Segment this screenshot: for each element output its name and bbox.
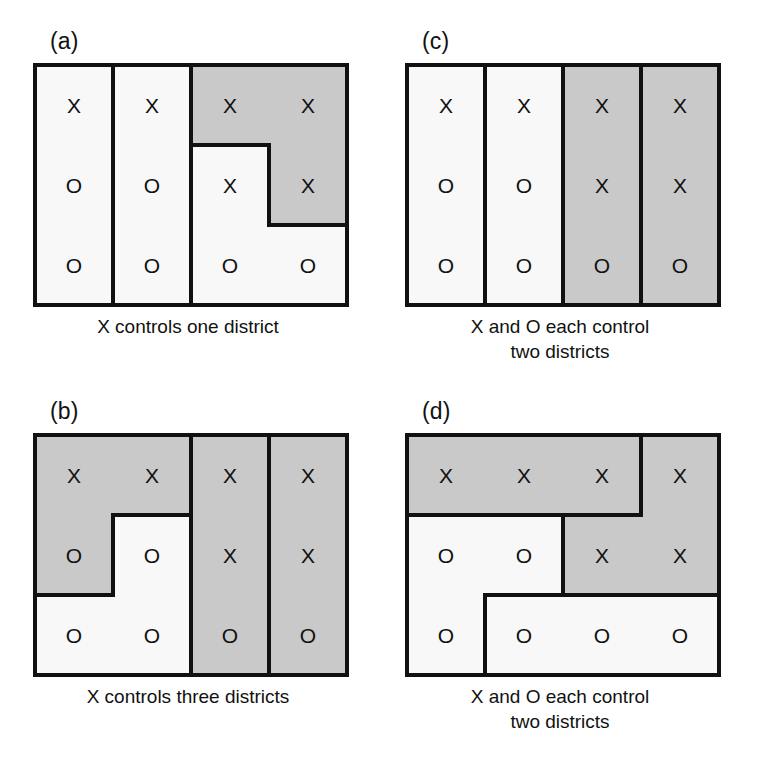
panel-a-caption: X controls one district	[8, 314, 368, 339]
voter-o-r1-c0: O	[66, 544, 82, 567]
panel-a-districts: XXXXOOXXOOOO	[32, 62, 350, 308]
voter-o-r1-c0: O	[438, 544, 454, 567]
voter-o-r2-c2: O	[594, 624, 610, 647]
voter-x-r0-c1: X	[517, 464, 531, 487]
panel-b-caption-line-1: X controls three districts	[8, 684, 368, 709]
voter-o-r2-c2: O	[222, 624, 238, 647]
voter-o-r1-c0: O	[438, 174, 454, 197]
voter-o-r1-c1: O	[516, 174, 532, 197]
voter-o-r1-c1: O	[144, 544, 160, 567]
voter-x-r0-c0: X	[67, 94, 81, 117]
voter-x-r0-c3: X	[301, 464, 315, 487]
voter-o-r1-c0: O	[66, 174, 82, 197]
voter-x-r0-c1: X	[517, 94, 531, 117]
voter-o-r2-c3: O	[300, 254, 316, 277]
voter-x-r1-c3: X	[673, 174, 687, 197]
voter-x-r0-c2: X	[595, 464, 609, 487]
panel-d-caption: X and O each control two districts	[380, 684, 740, 734]
voter-o-r2-c0: O	[66, 254, 82, 277]
panel-c-label: (c)	[422, 28, 449, 55]
voter-o-r2-c0: O	[438, 624, 454, 647]
panel-d: (d) XXXXOOXXOOOO X and O each control tw…	[380, 392, 740, 752]
voter-o-r2-c1: O	[144, 624, 160, 647]
panel-d-canvas: XXXXOOXXOOOO	[404, 432, 722, 678]
panel-d-caption-line-2: two districts	[380, 709, 740, 734]
panel-b-label: (b)	[50, 398, 79, 425]
gerrymandering-figure: (a) XXXXOOXXOOOO X controls one district…	[0, 0, 759, 773]
voter-o-r2-c3: O	[300, 624, 316, 647]
voter-x-r0-c3: X	[301, 94, 315, 117]
voter-x-r1-c3: X	[301, 174, 315, 197]
panel-b-caption: X controls three districts	[8, 684, 368, 709]
voter-o-r1-c1: O	[144, 174, 160, 197]
panel-b-canvas: XXXXOOXXOOOO	[32, 432, 350, 678]
voter-x-r0-c2: X	[223, 94, 237, 117]
voter-o-r2-c0: O	[438, 254, 454, 277]
panel-b: (b) XXXXOOXXOOOO X controls three distri…	[8, 392, 368, 752]
panel-b-districts: XXXXOOXXOOOO	[32, 432, 350, 678]
panel-a: (a) XXXXOOXXOOOO X controls one district	[8, 22, 368, 382]
voter-x-r1-c2: X	[223, 544, 237, 567]
panel-a-label: (a)	[50, 28, 79, 55]
voter-x-r0-c1: X	[145, 94, 159, 117]
voter-x-r0-c2: X	[223, 464, 237, 487]
panel-d-districts: XXXXOOXXOOOO	[404, 432, 722, 678]
panel-c-districts: XXXXOOXXOOOO	[404, 62, 722, 308]
voter-x-r1-c3: X	[301, 544, 315, 567]
voter-x-r0-c0: X	[439, 464, 453, 487]
voter-x-r0-c2: X	[595, 94, 609, 117]
voter-x-r0-c0: X	[67, 464, 81, 487]
panel-a-canvas: XXXXOOXXOOOO	[32, 62, 350, 308]
panel-d-caption-line-1: X and O each control	[380, 684, 740, 709]
panel-c-caption: X and O each control two districts	[380, 314, 740, 364]
voter-o-r2-c3: O	[672, 624, 688, 647]
voter-x-r1-c2: X	[595, 544, 609, 567]
voter-o-r2-c2: O	[594, 254, 610, 277]
voter-x-r1-c3: X	[673, 544, 687, 567]
voter-o-r2-c0: O	[66, 624, 82, 647]
voter-o-r2-c2: O	[222, 254, 238, 277]
panel-c: (c) XXXXOOXXOOOO X and O each control tw…	[380, 22, 740, 382]
voter-x-r1-c2: X	[595, 174, 609, 197]
voter-o-r2-c1: O	[516, 624, 532, 647]
panel-c-caption-line-1: X and O each control	[380, 314, 740, 339]
voter-o-r2-c1: O	[516, 254, 532, 277]
panel-c-canvas: XXXXOOXXOOOO	[404, 62, 722, 308]
panel-a-caption-line-1: X controls one district	[8, 314, 368, 339]
voter-o-r2-c3: O	[672, 254, 688, 277]
voter-o-r1-c1: O	[516, 544, 532, 567]
voter-x-r0-c3: X	[673, 464, 687, 487]
voter-x-r1-c2: X	[223, 174, 237, 197]
voter-x-r0-c3: X	[673, 94, 687, 117]
voter-o-r2-c1: O	[144, 254, 160, 277]
panel-c-caption-line-2: two districts	[380, 339, 740, 364]
voter-x-r0-c1: X	[145, 464, 159, 487]
voter-x-r0-c0: X	[439, 94, 453, 117]
panel-d-label: (d)	[422, 398, 451, 425]
